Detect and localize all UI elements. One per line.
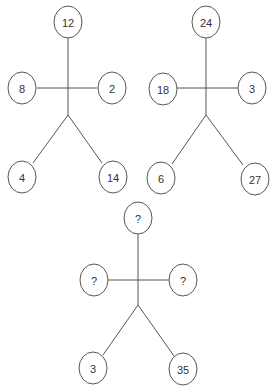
left-hand-node: 8 [8,72,36,104]
left-leg-line [172,115,206,164]
left-hand-value: 8 [19,83,25,95]
left-foot-node: 6 [147,162,175,194]
head-value: ? [135,213,141,225]
left-leg-line [33,115,68,163]
right-foot-value: 27 [249,174,261,186]
head-node: 12 [54,6,82,38]
puzzle-canvas: 12 8 2 4 14 [0,0,273,390]
left-hand-node: 18 [149,73,177,105]
left-leg-line [103,305,138,355]
head-node: ? [124,202,152,234]
right-foot-node: 35 [169,353,197,385]
head-value: 12 [62,17,74,29]
right-hand-value: 2 [109,83,115,95]
stick-figure-3: ? ? ? 3 35 [79,202,197,385]
right-foot-node: 27 [241,163,269,195]
right-hand-node: 3 [238,72,266,104]
right-hand-node: 2 [98,72,126,104]
left-hand-value: ? [91,275,97,287]
head-node: 24 [192,6,220,38]
right-foot-value: 14 [107,172,119,184]
right-foot-value: 35 [177,364,189,376]
left-foot-node: 3 [79,352,107,384]
left-foot-value: 6 [158,173,164,185]
left-foot-node: 4 [8,161,36,193]
stick-figure-1: 12 8 2 4 14 [8,6,127,193]
left-hand-node: ? [80,264,108,296]
right-leg-line [68,115,102,163]
right-hand-value: 3 [249,83,255,95]
stick-figure-2: 24 18 3 6 27 [147,6,269,195]
right-leg-line [138,305,174,356]
left-hand-value: 18 [157,84,169,96]
right-hand-value: ? [180,275,186,287]
head-value: 24 [200,17,212,29]
right-foot-node: 14 [99,161,127,193]
right-leg-line [206,115,243,165]
right-hand-node: ? [169,264,197,296]
left-foot-value: 4 [19,172,25,184]
left-foot-value: 3 [90,363,96,375]
